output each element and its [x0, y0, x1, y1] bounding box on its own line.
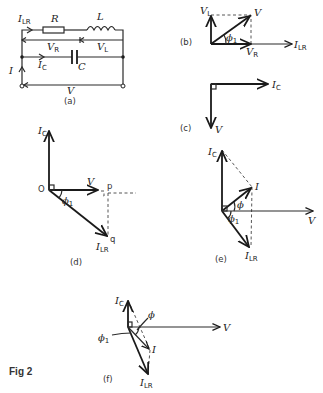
- svg-text:ILR: ILR: [139, 377, 153, 390]
- svg-text:VR: VR: [47, 41, 59, 54]
- svg-text:ϕ1: ϕ1: [62, 195, 73, 208]
- svg-text:O: O: [38, 184, 45, 194]
- svg-text:V: V: [223, 322, 232, 333]
- svg-text:ϕ: ϕ: [237, 199, 244, 210]
- phasor-diagram-c: IC V (c): [180, 79, 281, 135]
- phasor-diagram-e: IC I ϕ ϕ1 V ILR (e): [207, 146, 317, 264]
- svg-text:ILR: ILR: [244, 250, 258, 263]
- phasor-diagram-d: IC O V p ϕ1 q ILR (d): [37, 125, 136, 267]
- svg-text:I: I: [8, 65, 14, 76]
- svg-text:ILR: ILR: [293, 39, 307, 52]
- svg-text:L: L: [96, 11, 104, 22]
- svg-text:V: V: [215, 124, 224, 135]
- svg-text:V: V: [87, 176, 96, 187]
- svg-text:ϕ1: ϕ1: [98, 332, 109, 345]
- panel-label-d: (d): [70, 257, 82, 267]
- phasor-diagram-figure: ILR R L VR VL IC C I V (a) VL V ϕ1 VR IL…: [0, 0, 323, 393]
- phasor-diagram-b: VL V ϕ1 VR ILR (b): [180, 5, 307, 59]
- svg-text:C: C: [78, 61, 86, 72]
- svg-text:IC: IC: [37, 125, 47, 138]
- svg-text:VL: VL: [200, 5, 211, 18]
- panel-label-c: (c): [180, 123, 191, 133]
- svg-text:IC: IC: [207, 146, 217, 159]
- figure-caption: Fig 2: [9, 366, 33, 377]
- svg-text:IC: IC: [114, 295, 124, 308]
- panel-label-e: (e): [215, 254, 227, 264]
- resistor-symbol: [43, 27, 64, 33]
- svg-text:V: V: [67, 85, 76, 96]
- svg-text:I: I: [254, 181, 260, 192]
- phasor-diagram-f: IC ϕ V ϕ1 I ILR (f): [98, 295, 232, 390]
- panel-label-a: (a): [64, 96, 76, 106]
- svg-text:I: I: [151, 344, 157, 355]
- svg-text:ϕ1: ϕ1: [226, 32, 237, 45]
- circuit-diagram-a: ILR R L VR VL IC C I V (a): [8, 11, 125, 106]
- svg-text:ILR: ILR: [17, 13, 31, 26]
- svg-text:ϕ1: ϕ1: [228, 213, 239, 226]
- svg-text:IC: IC: [37, 59, 47, 72]
- panel-label-b: (b): [180, 37, 192, 47]
- svg-text:ϕ: ϕ: [148, 309, 155, 320]
- svg-text:q: q: [110, 234, 115, 244]
- svg-text:V: V: [308, 215, 317, 226]
- svg-text:V: V: [254, 7, 263, 18]
- svg-text:IC: IC: [271, 79, 281, 92]
- inductor-symbol: [87, 27, 115, 31]
- svg-text:R: R: [50, 13, 59, 24]
- svg-text:ILR: ILR: [95, 241, 109, 254]
- svg-text:p: p: [107, 181, 112, 191]
- svg-text:VR: VR: [246, 46, 258, 59]
- panel-label-f: (f): [103, 374, 113, 384]
- svg-text:VL: VL: [97, 41, 108, 54]
